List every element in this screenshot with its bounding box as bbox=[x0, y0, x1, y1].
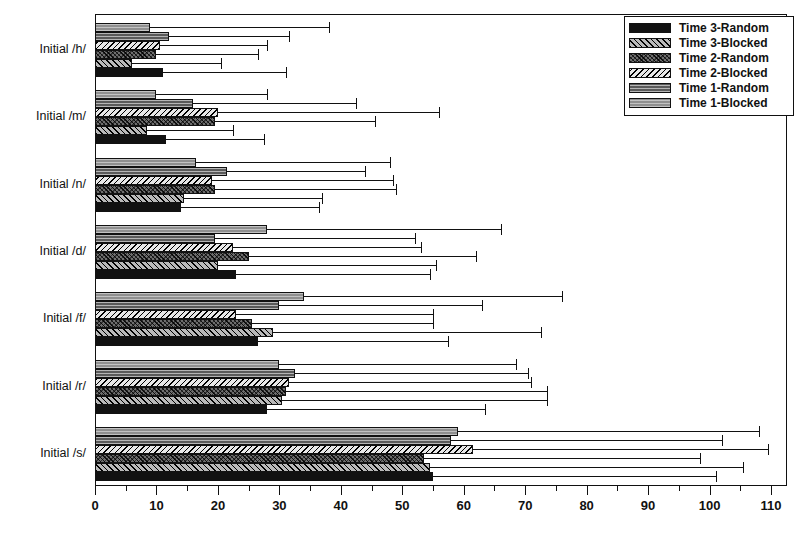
bar-row bbox=[0, 99, 806, 108]
x-axis-major-tick bbox=[771, 486, 772, 495]
bar-t3r[interactable] bbox=[95, 337, 258, 346]
error-bar bbox=[430, 467, 743, 468]
bar-row bbox=[0, 167, 806, 176]
x-axis: 0102030405060708090100110 bbox=[95, 486, 787, 546]
bar-t3r[interactable] bbox=[95, 270, 236, 279]
x-axis-major-tick bbox=[156, 486, 157, 495]
bar-t1r[interactable] bbox=[95, 369, 295, 378]
error-bar bbox=[279, 305, 482, 306]
bar-t3b[interactable] bbox=[95, 396, 282, 405]
bar-t3r[interactable] bbox=[95, 135, 166, 144]
bar-row bbox=[0, 337, 806, 346]
chart-root: Initial /h/Initial /m/Initial /n/Initial… bbox=[0, 0, 806, 547]
bar-t3b[interactable] bbox=[95, 59, 132, 68]
bar-row bbox=[0, 203, 806, 212]
bar-t1r[interactable] bbox=[95, 436, 451, 445]
error-bar bbox=[267, 229, 501, 230]
bar-row bbox=[0, 23, 806, 32]
bar-row bbox=[0, 445, 806, 454]
bar-t1b[interactable] bbox=[95, 292, 304, 301]
bar-t2r[interactable] bbox=[95, 454, 424, 463]
bar-t1r[interactable] bbox=[95, 99, 193, 108]
bar-t1r[interactable] bbox=[95, 167, 227, 176]
bar-t2r[interactable] bbox=[95, 117, 215, 126]
x-axis-tick-label: 80 bbox=[579, 498, 593, 513]
bar-t3r[interactable] bbox=[95, 68, 163, 77]
x-axis-minor-tick bbox=[556, 486, 557, 491]
bar-t1b[interactable] bbox=[95, 158, 196, 167]
x-axis-major-tick bbox=[710, 486, 711, 495]
bar-row bbox=[0, 301, 806, 310]
error-bar bbox=[236, 274, 430, 275]
bar-row bbox=[0, 378, 806, 387]
bar-row bbox=[0, 427, 806, 436]
error-bar bbox=[215, 121, 375, 122]
error-bar bbox=[166, 139, 264, 140]
bar-t2b[interactable] bbox=[95, 310, 236, 319]
bar-row bbox=[0, 387, 806, 396]
bar-t3b[interactable] bbox=[95, 194, 184, 203]
bar-t2b[interactable] bbox=[95, 445, 473, 454]
error-bar bbox=[160, 45, 268, 46]
error-bar bbox=[236, 314, 433, 315]
bar-t2b[interactable] bbox=[95, 243, 233, 252]
x-axis-minor-tick bbox=[433, 486, 434, 491]
error-bar bbox=[163, 72, 286, 73]
error-bar bbox=[279, 364, 516, 365]
error-bar bbox=[218, 265, 436, 266]
bar-t2b[interactable] bbox=[95, 108, 218, 117]
error-bar-cap bbox=[286, 67, 287, 78]
x-axis-major-tick bbox=[341, 486, 342, 495]
bar-row bbox=[0, 90, 806, 99]
bar-t2r[interactable] bbox=[95, 252, 249, 261]
bar-t1r[interactable] bbox=[95, 32, 169, 41]
bar-t2r[interactable] bbox=[95, 50, 156, 59]
bar-row bbox=[0, 405, 806, 414]
bar-t1r[interactable] bbox=[95, 234, 215, 243]
bar-row bbox=[0, 310, 806, 319]
error-bar bbox=[181, 207, 319, 208]
bar-t3b[interactable] bbox=[95, 463, 430, 472]
x-axis-tick-label: 100 bbox=[699, 498, 721, 513]
bar-t2r[interactable] bbox=[95, 319, 252, 328]
error-bar bbox=[289, 382, 532, 383]
bar-t2b[interactable] bbox=[95, 378, 289, 387]
error-bar bbox=[212, 180, 393, 181]
x-axis-minor-tick bbox=[126, 486, 127, 491]
x-axis-tick-label: 40 bbox=[334, 498, 348, 513]
bar-row bbox=[0, 126, 806, 135]
error-bar bbox=[451, 440, 721, 441]
bar-row bbox=[0, 32, 806, 41]
bar-t1r[interactable] bbox=[95, 301, 279, 310]
error-bar bbox=[227, 171, 365, 172]
x-axis-major-tick bbox=[218, 486, 219, 495]
error-bar bbox=[156, 94, 267, 95]
bar-row bbox=[0, 261, 806, 270]
bar-t1b[interactable] bbox=[95, 427, 458, 436]
bar-t3b[interactable] bbox=[95, 126, 147, 135]
bar-t3b[interactable] bbox=[95, 261, 218, 270]
error-bar bbox=[193, 103, 356, 104]
error-bar bbox=[304, 296, 562, 297]
x-axis-tick-label: 20 bbox=[211, 498, 225, 513]
bar-t1b[interactable] bbox=[95, 90, 156, 99]
bar-t2r[interactable] bbox=[95, 387, 286, 396]
error-bar bbox=[252, 323, 433, 324]
bar-row bbox=[0, 252, 806, 261]
error-bar bbox=[215, 189, 396, 190]
error-bar bbox=[196, 162, 390, 163]
x-axis-minor-tick bbox=[740, 486, 741, 491]
bar-t3r[interactable] bbox=[95, 405, 267, 414]
bar-t2b[interactable] bbox=[95, 41, 160, 50]
error-bar bbox=[184, 198, 322, 199]
bar-t1b[interactable] bbox=[95, 225, 267, 234]
bar-t2b[interactable] bbox=[95, 176, 212, 185]
bar-t3r[interactable] bbox=[95, 472, 433, 481]
bar-t3b[interactable] bbox=[95, 328, 273, 337]
bar-t1b[interactable] bbox=[95, 23, 150, 32]
bar-t1b[interactable] bbox=[95, 360, 279, 369]
error-bar bbox=[267, 409, 485, 410]
x-axis-major-tick bbox=[464, 486, 465, 495]
bar-t3r[interactable] bbox=[95, 203, 181, 212]
bar-t2r[interactable] bbox=[95, 185, 215, 194]
